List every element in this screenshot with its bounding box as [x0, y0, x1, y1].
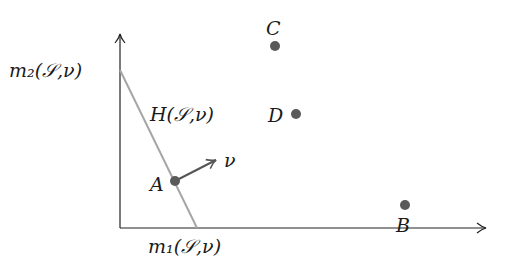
- point-b-label: B: [395, 214, 410, 236]
- point-c-label: C: [266, 17, 281, 39]
- point-d-label: D: [267, 104, 283, 126]
- hyperplane-line: [120, 70, 197, 228]
- x-axis-label: m₁(𝒮,ν): [148, 235, 221, 257]
- hyperplane-label: H(𝒮,ν): [149, 103, 214, 125]
- normal-vector-arrow: [175, 160, 216, 181]
- point-d: [291, 109, 301, 119]
- point-b: [400, 200, 410, 210]
- point-a: [170, 176, 180, 186]
- normal-vector-label: ν: [224, 149, 236, 171]
- point-a-label: A: [148, 173, 164, 195]
- y-axis-label: m₂(𝒮,ν): [9, 59, 82, 81]
- diagram-canvas: m₂(𝒮,ν) m₁(𝒮,ν) H(𝒮,ν) ν A B C D: [0, 0, 509, 273]
- point-c: [270, 41, 280, 51]
